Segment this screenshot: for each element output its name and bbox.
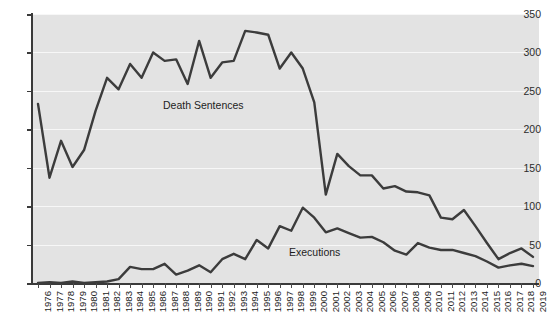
- line-death-sentences: [38, 31, 533, 259]
- line-executions: [38, 208, 533, 283]
- series-label-death-sentences: Death Sentences: [163, 99, 244, 111]
- series-label-executions: Executions: [289, 246, 340, 258]
